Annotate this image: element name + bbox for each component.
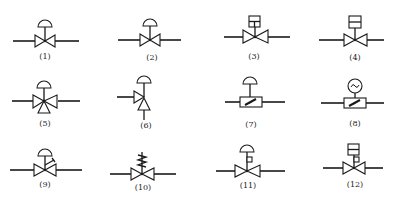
symbol-label-2: (2) xyxy=(146,53,157,62)
symbol-label-6: (6) xyxy=(140,121,151,130)
symbol-label-4: (4) xyxy=(349,53,360,62)
valve-symbol-12 xyxy=(323,144,383,174)
positioner-icon xyxy=(247,157,252,162)
symbol-label-9: (9) xyxy=(39,180,50,189)
handwheel-icon xyxy=(45,160,54,165)
valve-symbols-diagram: (1) (2) (3) (4) (5) (6) (7) (8) (9) (10)… xyxy=(0,0,399,198)
valve-symbol-2 xyxy=(118,19,181,46)
symbol-label-10: (10) xyxy=(135,183,151,192)
diaphragm-actuator-icon xyxy=(143,19,157,26)
symbol-label-8: (8) xyxy=(349,119,360,128)
diaphragm-actuator-icon xyxy=(38,149,52,156)
positioner-icon xyxy=(354,157,359,162)
valve-symbol-9 xyxy=(10,149,82,176)
valve-symbol-6 xyxy=(117,76,151,120)
valve-symbol-5 xyxy=(12,81,80,113)
valve-symbol-11 xyxy=(216,145,285,177)
valve-symbol-3 xyxy=(224,16,290,43)
symbol-label-3: (3) xyxy=(248,52,259,61)
symbol-label-7: (7) xyxy=(245,120,256,129)
diaphragm-actuator-icon xyxy=(38,20,52,27)
diaphragm-actuator-icon xyxy=(240,145,254,152)
valve-symbol-1 xyxy=(13,20,79,47)
diaphragm-actuator-icon xyxy=(37,81,51,88)
diaphragm-actuator-icon xyxy=(243,77,257,84)
valve-symbol-8 xyxy=(321,79,384,108)
valve-symbol-7 xyxy=(225,77,285,107)
valve-symbol-4 xyxy=(319,16,384,46)
symbol-label-1: (1) xyxy=(39,52,50,61)
symbol-label-5: (5) xyxy=(39,119,50,128)
diaphragm-actuator-icon xyxy=(137,76,151,83)
symbol-label-11: (11) xyxy=(240,181,256,190)
symbol-label-12: (12) xyxy=(347,180,363,189)
valve-symbol-10 xyxy=(110,152,176,180)
